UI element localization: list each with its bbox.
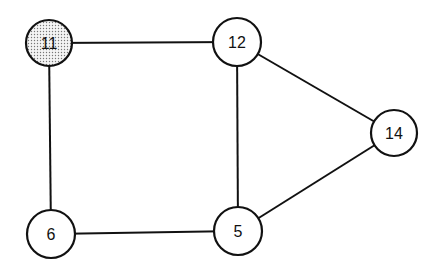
edges-layer bbox=[49, 42, 394, 234]
node-12: 12 bbox=[213, 18, 261, 66]
edge-11-6 bbox=[49, 43, 51, 234]
node-11: 11 bbox=[26, 20, 72, 66]
node-label: 6 bbox=[47, 226, 56, 243]
node-6: 6 bbox=[27, 210, 75, 258]
edge-14-5 bbox=[238, 133, 394, 231]
node-14: 14 bbox=[371, 110, 417, 156]
graph-diagram: 11121465 bbox=[0, 0, 443, 269]
node-label: 11 bbox=[41, 35, 58, 52]
nodes-layer: 11121465 bbox=[26, 18, 417, 258]
node-label: 14 bbox=[385, 125, 403, 142]
node-label: 5 bbox=[234, 223, 243, 240]
edge-12-5 bbox=[237, 42, 238, 231]
node-5: 5 bbox=[214, 207, 262, 255]
edge-12-14 bbox=[237, 42, 394, 133]
edge-11-12 bbox=[49, 42, 237, 43]
node-label: 12 bbox=[228, 34, 246, 51]
edge-6-5 bbox=[51, 231, 238, 234]
